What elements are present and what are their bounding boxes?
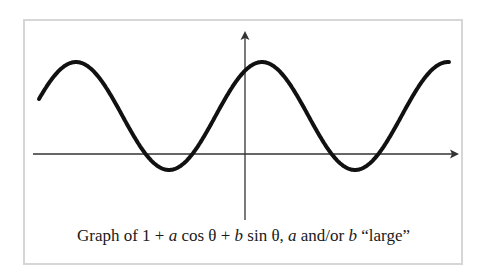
caption-text: sin θ, [243,226,288,245]
caption-text: and/or [297,226,349,245]
caption-text: Graph of 1 + [77,226,169,245]
caption-var-a: a [169,226,178,245]
caption-var-a: a [288,226,297,245]
caption-var-b: b [349,226,358,245]
caption-var-b: b [235,226,244,245]
figure-caption: Graph of 1 + a cos θ + b sin θ, a and/or… [0,226,487,246]
x-axis [33,150,459,159]
caption-text: “large” [357,226,410,245]
caption-text: cos θ + [177,226,234,245]
y-axis [241,31,250,220]
